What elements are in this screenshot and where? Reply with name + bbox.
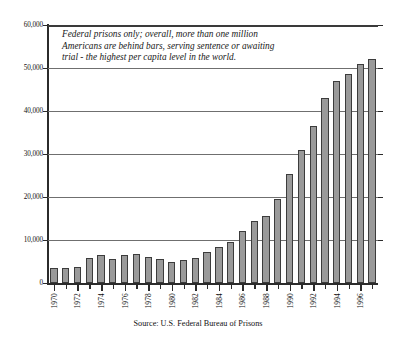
bar-1995 bbox=[345, 74, 352, 283]
x-tick-1971 bbox=[66, 283, 67, 289]
y-axis-label-30000: 30,000 bbox=[24, 150, 43, 158]
x-axis-line bbox=[47, 283, 378, 285]
y-axis-label-60000: 60,000 bbox=[24, 21, 43, 29]
x-axis-label-1980: 1980 bbox=[168, 293, 177, 309]
x-tick-1984 bbox=[219, 283, 221, 291]
x-tick-1979 bbox=[160, 283, 161, 289]
prison-population-bar-chart: Federal prisons only; overall, more than… bbox=[0, 0, 396, 343]
source-note: Source: U.S. Federal Bureau of Prisons bbox=[0, 319, 396, 328]
x-axis-label-1986: 1986 bbox=[238, 293, 247, 309]
y-tick-40000 bbox=[43, 111, 48, 113]
x-tick-1987 bbox=[254, 283, 255, 289]
bar-1972 bbox=[74, 267, 81, 283]
x-tick-1973 bbox=[89, 283, 90, 289]
y-tick-right-40000 bbox=[378, 111, 383, 113]
bar-1983 bbox=[203, 252, 210, 283]
x-axis-label-1988: 1988 bbox=[262, 293, 271, 309]
y-tick-20000 bbox=[43, 197, 48, 199]
x-tick-1972 bbox=[77, 283, 79, 291]
y-axis-label-10000: 10,000 bbox=[24, 236, 43, 244]
x-axis-label-1992: 1992 bbox=[309, 293, 318, 309]
bar-1975 bbox=[109, 259, 116, 283]
x-tick-1988 bbox=[266, 283, 268, 291]
y-axis-label-40000: 40,000 bbox=[24, 107, 43, 115]
x-tick-1989 bbox=[278, 283, 279, 289]
bar-1973 bbox=[86, 258, 93, 283]
bar-1993 bbox=[321, 98, 328, 283]
bar-1977 bbox=[133, 254, 140, 283]
x-tick-1991 bbox=[301, 283, 302, 289]
x-tick-1983 bbox=[207, 283, 208, 289]
y-tick-30000 bbox=[43, 154, 48, 156]
bar-1982 bbox=[192, 258, 199, 283]
bar-1976 bbox=[121, 255, 128, 283]
y-tick-right-10000 bbox=[378, 240, 383, 242]
x-tick-1975 bbox=[113, 283, 114, 289]
y-axis-label-50000: 50,000 bbox=[24, 64, 43, 72]
bar-1987 bbox=[251, 221, 258, 283]
bar-1978 bbox=[145, 257, 152, 283]
bar-1994 bbox=[333, 81, 340, 283]
x-axis-label-1978: 1978 bbox=[144, 293, 153, 309]
bar-1992 bbox=[310, 126, 317, 283]
x-axis-label-1976: 1976 bbox=[121, 293, 130, 309]
y-tick-right-60000 bbox=[378, 25, 383, 27]
x-tick-1990 bbox=[290, 283, 292, 291]
x-axis-label-1972: 1972 bbox=[73, 293, 82, 309]
bar-1970 bbox=[50, 268, 57, 283]
bar-1991 bbox=[298, 150, 305, 283]
y-tick-0 bbox=[43, 283, 48, 285]
bar-1971 bbox=[62, 268, 69, 283]
y-tick-right-30000 bbox=[378, 154, 383, 156]
y-tick-60000 bbox=[43, 25, 48, 27]
bar-1981 bbox=[180, 260, 187, 283]
x-tick-1985 bbox=[231, 283, 232, 289]
bar-1974 bbox=[97, 255, 104, 283]
x-axis-label-1970: 1970 bbox=[50, 293, 59, 309]
y-tick-right-50000 bbox=[378, 68, 383, 70]
y-tick-50000 bbox=[43, 68, 48, 70]
x-tick-1992 bbox=[313, 283, 315, 291]
plot-area bbox=[48, 25, 378, 283]
y-tick-right-20000 bbox=[378, 197, 383, 199]
x-tick-1974 bbox=[101, 283, 103, 291]
x-axis-label-1990: 1990 bbox=[286, 293, 295, 309]
x-axis-label-1982: 1982 bbox=[191, 293, 200, 309]
bar-1990 bbox=[286, 174, 293, 283]
x-axis-label-1974: 1974 bbox=[97, 293, 106, 309]
x-tick-1982 bbox=[195, 283, 197, 291]
x-tick-1970 bbox=[54, 283, 56, 291]
bar-1985 bbox=[227, 242, 234, 283]
x-tick-1986 bbox=[242, 283, 244, 291]
bars-group bbox=[48, 25, 378, 283]
x-tick-1993 bbox=[325, 283, 326, 289]
bar-1986 bbox=[239, 231, 246, 283]
x-tick-1977 bbox=[136, 283, 137, 289]
x-tick-1981 bbox=[184, 283, 185, 289]
bar-1988 bbox=[262, 216, 269, 283]
bar-1979 bbox=[156, 259, 163, 283]
x-axis-label-1996: 1996 bbox=[356, 293, 365, 309]
bar-1996 bbox=[357, 64, 364, 283]
bar-1984 bbox=[215, 247, 222, 283]
bar-1980 bbox=[168, 262, 175, 283]
y-axis-label-20000: 20,000 bbox=[24, 193, 43, 201]
bar-1989 bbox=[274, 199, 281, 283]
x-axis-label-1984: 1984 bbox=[215, 293, 224, 309]
y-tick-10000 bbox=[43, 240, 48, 242]
x-tick-1980 bbox=[172, 283, 174, 291]
x-tick-1996 bbox=[360, 283, 362, 291]
bar-1997 bbox=[368, 59, 375, 283]
x-tick-1978 bbox=[148, 283, 150, 291]
x-axis-label-1994: 1994 bbox=[333, 293, 342, 309]
x-tick-1995 bbox=[349, 283, 350, 289]
x-tick-1976 bbox=[125, 283, 127, 291]
x-tick-1994 bbox=[337, 283, 339, 291]
x-tick-1997 bbox=[372, 283, 373, 289]
